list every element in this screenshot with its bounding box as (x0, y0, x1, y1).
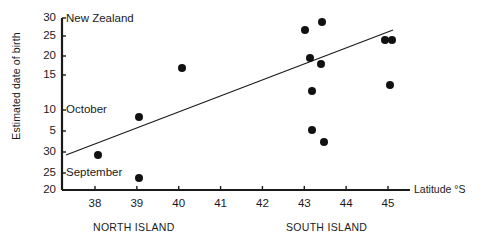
y-tick-label-7: 25 (30, 167, 56, 179)
trend-line (66, 30, 393, 155)
x-tick-label-4: 42 (249, 198, 275, 210)
y-tick-label-6: 30 (30, 146, 56, 158)
y-tick-label-0: 30 (30, 12, 56, 24)
group-label-north-island: NORTH ISLAND (93, 222, 175, 233)
data-point-2 (135, 174, 143, 182)
y-tick-label-3: 15 (30, 69, 56, 81)
data-point-10 (381, 36, 389, 44)
x-tick-label-1: 39 (124, 198, 150, 210)
data-point-5 (318, 18, 326, 26)
y-tick-label-4: 10 (30, 104, 56, 116)
data-point-7 (317, 60, 325, 68)
chart-canvas (0, 0, 492, 244)
data-point-1 (135, 113, 143, 121)
data-point-8 (308, 87, 316, 95)
y-tick-label-1: 25 (30, 30, 56, 42)
x-axis-title: Latitude °S (414, 184, 466, 195)
x-tick-label-6: 44 (333, 198, 359, 210)
x-tick-label-2: 40 (166, 198, 192, 210)
data-point-9 (308, 126, 316, 134)
data-point-3 (178, 64, 186, 72)
x-tick-label-5: 43 (291, 198, 317, 210)
data-point-0 (94, 151, 102, 159)
y-tick-label-8: 20 (30, 184, 56, 196)
month-label-0: October (66, 104, 107, 116)
data-point-6 (306, 54, 314, 62)
y-tick-label-5: 5 (30, 125, 56, 137)
x-tick-label-7: 45 (375, 198, 401, 210)
region-label: New Zealand (66, 13, 134, 25)
data-point-4 (301, 26, 309, 34)
data-point-13 (320, 138, 328, 146)
y-tick-label-2: 20 (30, 50, 56, 62)
x-tick-label-3: 41 (208, 198, 234, 210)
month-label-1: September (66, 167, 122, 179)
x-tick-label-0: 38 (82, 198, 108, 210)
data-point-12 (386, 81, 394, 89)
chart-figure: Estimated date of birth 3025201510530252… (0, 0, 492, 244)
group-label-south-island: SOUTH ISLAND (286, 222, 367, 233)
data-point-11 (388, 36, 396, 44)
